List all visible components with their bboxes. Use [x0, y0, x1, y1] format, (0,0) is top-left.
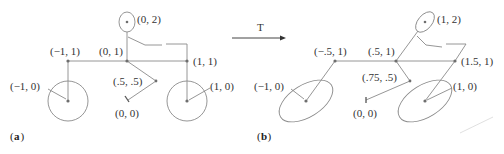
- label-right-wheel: (1, 0): [210, 80, 234, 93]
- label-left-wheel: (−1, 0): [254, 80, 284, 93]
- label-head: (1, 2): [437, 13, 461, 26]
- leader-left-wheel: [291, 89, 304, 99]
- rider-arm: [417, 36, 442, 47]
- point-right-top: [185, 59, 188, 62]
- label-right-top: (1, 1): [193, 55, 217, 68]
- panel-b: (1, 2) (−.5, 1) (.5, 1) (1.5, 1) (.75, .…: [254, 8, 493, 143]
- panel-a: (0, 2) (−1, 1) (0, 1) (1, 1) (.5, .5) (−…: [10, 12, 234, 143]
- point-center-top: [394, 59, 397, 62]
- label-center-top: (0, 1): [99, 45, 123, 58]
- point-left-wheel: [66, 99, 69, 102]
- rider-arm: [128, 37, 162, 45]
- caption-a: a: [14, 130, 20, 142]
- transform-label: T: [257, 21, 264, 33]
- point-pedal: [155, 80, 158, 83]
- head-point: [424, 21, 427, 24]
- bicycle-shear-diagram: (0, 2) (−1, 1) (0, 1) (1, 1) (.5, .5) (−…: [0, 0, 504, 154]
- label-origin: (0, 0): [115, 107, 139, 120]
- rider-body: [396, 31, 418, 61]
- svg-text:): ): [21, 130, 25, 143]
- head-point: [126, 21, 129, 24]
- leader-left-wheel: [48, 89, 66, 99]
- front-fork: [425, 61, 455, 101]
- label-left-top: (−.5, 1): [314, 45, 347, 58]
- label-right-wheel: (1, 0): [453, 80, 477, 93]
- transform-arrow: T: [232, 21, 286, 41]
- point-left-top: [333, 59, 336, 62]
- point-pedal: [409, 80, 412, 83]
- label-right-top: (1.5, 1): [461, 55, 493, 68]
- point-left-wheel: [304, 99, 307, 102]
- handlebar: [166, 44, 187, 61]
- scan-artifact: [460, 117, 493, 133]
- label-center-top: (.5, 1): [368, 45, 395, 58]
- label-origin: (0, 0): [353, 107, 377, 120]
- point-right-top: [453, 59, 456, 62]
- point-right-wheel: [185, 99, 188, 102]
- caption-b: b: [261, 130, 267, 142]
- label-head: (0, 2): [137, 13, 161, 26]
- point-origin: [125, 96, 129, 102]
- label-left-top: (−1, 1): [50, 45, 80, 58]
- arrow-head-icon: [280, 36, 286, 41]
- label-left-wheel: (−1, 0): [10, 80, 40, 93]
- point-center-top: [125, 59, 128, 62]
- point-right-wheel: [423, 99, 426, 102]
- label-pedal: (.75, .5): [362, 71, 397, 84]
- svg-text:): ): [268, 130, 272, 143]
- point-left-top: [66, 59, 69, 62]
- rear-fork: [306, 61, 335, 101]
- label-pedal: (.5, .5): [113, 75, 143, 88]
